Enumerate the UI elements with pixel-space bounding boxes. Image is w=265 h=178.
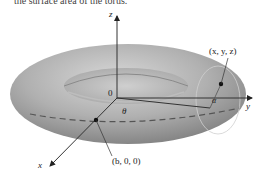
alpha-label: α (212, 96, 216, 105)
z-axis-label: z (109, 9, 113, 19)
torus-shape (10, 44, 246, 144)
origin-label: 0 (108, 88, 113, 98)
y-axis-label: y (246, 101, 250, 111)
surface-point-label: (x, y, z) (209, 46, 236, 56)
center-point-label: (b, 0, 0) (112, 156, 141, 166)
theta-label: θ (122, 106, 126, 116)
torus-figure (0, 0, 265, 178)
x-axis-label: x (38, 160, 42, 170)
